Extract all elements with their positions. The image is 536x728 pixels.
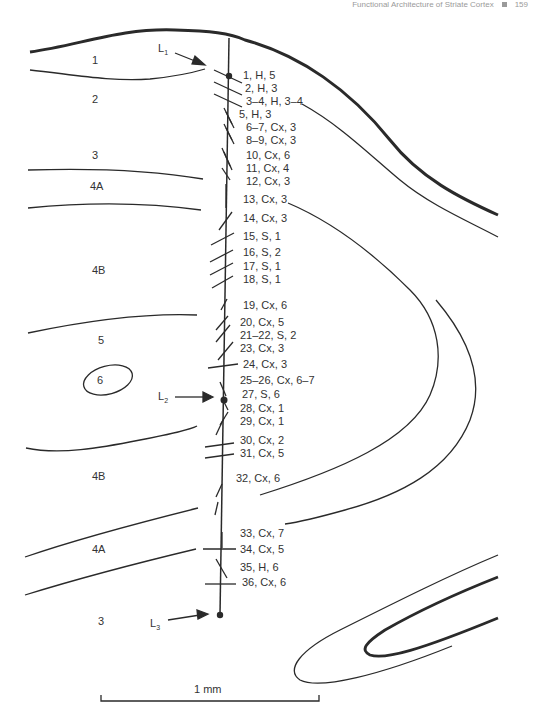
site-label: 19, Cx, 6: [243, 299, 287, 311]
recording-site-labels: 1, H, 5 2, H, 3 3–4, H, 3–4 5, H, 3 6–7,…: [236, 69, 315, 588]
layer-label: 3: [92, 149, 98, 161]
fold-outer-boundary: [294, 555, 498, 683]
layer-6-island: [80, 360, 136, 400]
site-label: 30, Cx, 2: [240, 434, 284, 446]
lesion-arrows: [168, 53, 213, 620]
layer-label: 1: [92, 54, 98, 66]
cortex-electrode-track-diagram: L1 L2 L3 1 2 3 4A 4B 5 6 4B 4A 3 1, H, 5…: [0, 0, 536, 728]
site-label: 18, S, 1: [243, 273, 281, 285]
layer-label: 3: [98, 615, 104, 627]
site-label: 11, Cx, 4: [246, 162, 289, 174]
site-label: 14, Cx, 3: [243, 212, 287, 224]
layer-1-2-boundary: [30, 69, 205, 80]
orientation-ticks: [203, 70, 242, 584]
site-label: 17, S, 1: [243, 260, 281, 272]
site-label: 24, Cx, 3: [243, 358, 287, 370]
site-label: 25–26, Cx, 6–7: [240, 374, 315, 386]
layer-labels: 1 2 3 4A 4B 5 6 4B 4A 3: [90, 54, 106, 627]
site-label: 6–7, Cx, 3: [246, 121, 296, 133]
lower-4a-3-boundary: [25, 549, 196, 595]
site-label: 29, Cx, 1: [240, 415, 284, 427]
layer-5-4b-lower-boundary: [26, 426, 197, 451]
layer-label: 5: [98, 334, 104, 346]
lesion-l3-dot: [217, 612, 223, 618]
layer-label: 4A: [90, 180, 104, 192]
layer-1-2-boundary-right: [302, 104, 498, 237]
site-label: 33, Cx, 7: [240, 527, 284, 539]
layer-label: 6: [97, 374, 103, 386]
site-label: 2, H, 3: [245, 82, 277, 94]
scale-bar: 1 mm: [101, 683, 319, 701]
lesion-label-l2: L2: [158, 390, 168, 404]
site-label: 21–22, S, 2: [240, 329, 296, 341]
lesion-label-l1: L1: [158, 42, 168, 56]
site-label: 12, Cx, 3: [246, 175, 290, 187]
site-label: 34, Cx, 5: [240, 543, 284, 555]
lesion-label-l3: L3: [150, 617, 160, 631]
layer-label: 4A: [92, 543, 106, 555]
site-label: 28, Cx, 1: [240, 402, 284, 414]
site-label: 1, H, 5: [243, 69, 275, 81]
site-label: 3–4, H, 3–4: [246, 95, 303, 107]
layer-4b-5-boundary: [28, 315, 197, 333]
scale-bar-label: 1 mm: [194, 683, 222, 695]
layer-label: 4B: [92, 264, 105, 276]
site-label: 15, S, 1: [243, 230, 281, 242]
site-label: 16, S, 2: [243, 246, 281, 258]
site-label: 27, S, 6: [242, 388, 280, 400]
layer-3-4a-boundary: [28, 169, 203, 179]
layer-label: 4B: [92, 470, 105, 482]
site-label: 35, H, 6: [240, 561, 279, 573]
layer-label: 2: [92, 93, 98, 105]
site-label: 5, H, 3: [239, 108, 271, 120]
site-label: 10, Cx, 6: [246, 149, 290, 161]
curved-boundary-inner: [285, 300, 476, 524]
site-label: 31, Cx, 5: [240, 447, 284, 459]
layer-4a-4b-boundary: [28, 204, 201, 210]
site-label: 20, Cx, 5: [240, 316, 284, 328]
site-label: 23, Cx, 3: [240, 342, 284, 354]
site-label: 36, Cx, 6: [242, 576, 286, 588]
fold-pial-surface: [365, 577, 498, 656]
site-label: 8–9, Cx, 3: [246, 134, 296, 146]
scale-bar-line: [101, 695, 319, 701]
lower-4b-4a-boundary: [25, 508, 198, 557]
site-label: 32, Cx, 6: [236, 472, 280, 484]
curved-boundary-outer: [260, 203, 438, 495]
site-label: 13, Cx, 3: [243, 193, 287, 205]
